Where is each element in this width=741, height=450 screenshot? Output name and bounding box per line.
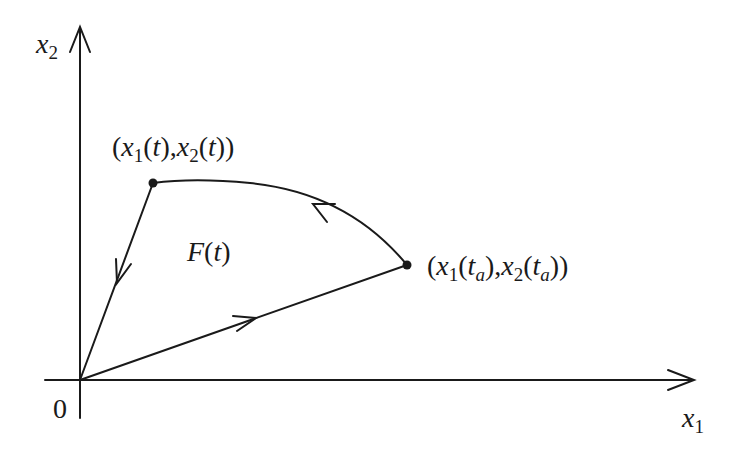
paren: ( (112, 131, 121, 162)
paren: ( (199, 131, 208, 162)
paren: ) (225, 131, 234, 162)
arg: t (208, 131, 216, 162)
comma: , (170, 131, 177, 162)
var: x (501, 250, 513, 281)
paren: ( (427, 250, 436, 281)
sub: 2 (189, 145, 199, 166)
x-axis-label-sub: 1 (694, 416, 704, 437)
arrowhead-up-left-icon (313, 204, 335, 222)
x-axis-label-var: x (682, 402, 694, 433)
paren: ) (216, 131, 225, 162)
paren: ) (550, 250, 559, 281)
y-axis-label-sub: 2 (48, 42, 58, 63)
paren: ( (143, 131, 152, 162)
arrowhead-right-icon (233, 316, 256, 331)
point-label-current-state: (x1(t),x2(t)) (112, 133, 234, 161)
y-axis-label: x2 (36, 30, 58, 58)
sub: 1 (449, 264, 459, 285)
sub: 2 (514, 264, 524, 285)
paren: ) (485, 250, 494, 281)
var: x (121, 131, 133, 162)
point-label-state-at-ta: (x1(ta),x2(ta)) (427, 252, 568, 280)
var: x (436, 250, 448, 281)
phase-plane-diagram (0, 0, 741, 450)
sub: 1 (134, 145, 144, 166)
var: x (177, 131, 189, 162)
region-label: F(t) (187, 238, 231, 266)
arg-sub: a (475, 264, 485, 285)
point-current-state-icon (149, 179, 158, 188)
point-state-at-ta-icon (403, 261, 412, 270)
y-axis-label-var: x (36, 28, 48, 59)
paren: ( (458, 250, 467, 281)
path-origin-to-ta (80, 265, 407, 380)
x-axis-label: x1 (682, 404, 704, 432)
paren: ) (221, 236, 230, 267)
paren: ) (559, 250, 568, 281)
func: F (187, 236, 204, 267)
arg-sub: a (540, 264, 550, 285)
origin-label: 0 (53, 395, 67, 423)
paren: ) (160, 131, 169, 162)
